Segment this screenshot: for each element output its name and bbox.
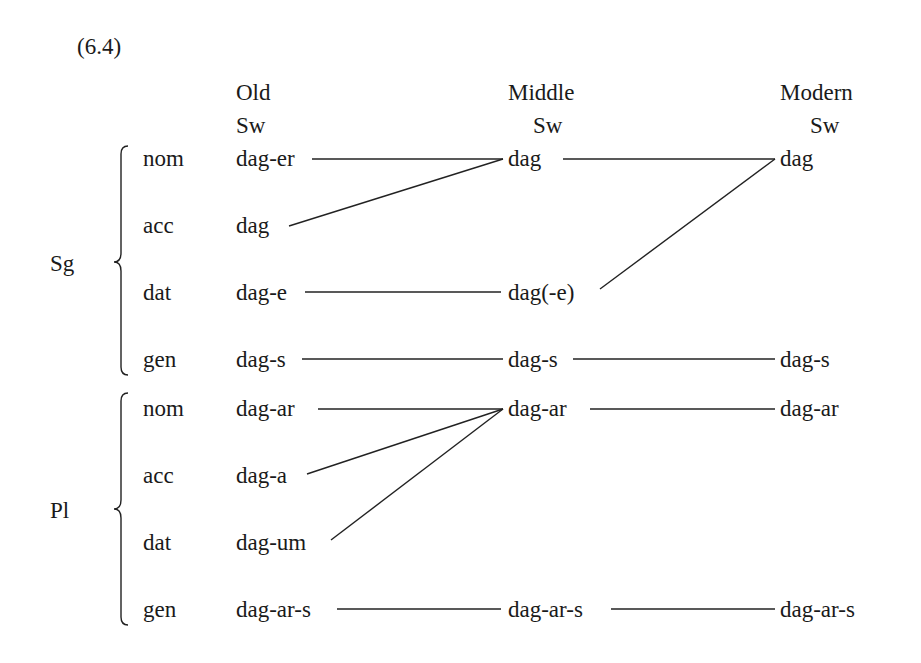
conn-sg-acc-old-middle [289, 159, 503, 226]
column-header-middle-sub: Sw [533, 114, 562, 137]
case-label: acc [143, 464, 174, 487]
case-label: acc [143, 214, 174, 237]
case-label: dat [143, 281, 171, 304]
form-old: dag-s [236, 348, 286, 371]
conn-pl-dat-old-middle [331, 409, 503, 540]
case-label: nom [143, 397, 184, 420]
form-middle: dag [508, 147, 541, 170]
case-label: nom [143, 147, 184, 170]
form-old: dag-ar-s [236, 598, 311, 621]
conn-pl-acc-old-middle [307, 409, 503, 474]
case-label: dat [143, 531, 171, 554]
example-number: (6.4) [77, 35, 121, 58]
form-old: dag-er [236, 147, 295, 170]
form-modern: dag-ar [780, 397, 839, 420]
form-middle: dag-s [508, 348, 558, 371]
case-label: gen [143, 348, 176, 371]
case-label: gen [143, 598, 176, 621]
form-old: dag-um [236, 531, 306, 554]
column-header-middle: Middle [508, 81, 574, 104]
form-middle: dag(-e) [508, 281, 574, 304]
column-header-modern-sub: Sw [810, 114, 839, 137]
conn-sg-dat-middle-modern [600, 159, 775, 289]
sg-brace [114, 146, 128, 375]
form-old: dag-ar [236, 397, 295, 420]
form-modern: dag-ar-s [780, 598, 855, 621]
form-modern: dag-s [780, 348, 830, 371]
form-modern: dag [780, 147, 813, 170]
form-middle: dag-ar [508, 397, 567, 420]
form-old: dag [236, 214, 269, 237]
form-old: dag-e [236, 281, 287, 304]
column-header-old: Old [236, 81, 271, 104]
form-old: dag-a [236, 464, 287, 487]
group-label-sg: Sg [50, 252, 74, 275]
pl-brace [114, 393, 128, 625]
column-header-old-sub: Sw [236, 114, 265, 137]
group-label-pl: Pl [50, 499, 69, 522]
column-header-modern: Modern [780, 81, 853, 104]
form-middle: dag-ar-s [508, 598, 583, 621]
